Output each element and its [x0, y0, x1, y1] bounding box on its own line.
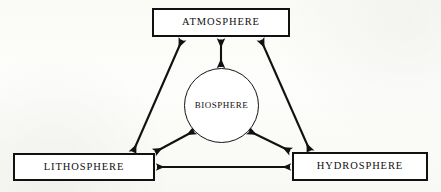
connector-atmosphere-lithosphere: [133, 40, 182, 152]
node-lithosphere: LITHOSPHERE: [13, 153, 155, 181]
connector-biosphere-lithosphere: [155, 131, 194, 152]
node-hydrosphere-label: HYDROSPHERE: [317, 161, 403, 172]
node-hydrosphere: HYDROSPHERE: [292, 152, 428, 181]
node-atmosphere: ATMOSPHERE: [152, 8, 290, 37]
spheres-diagram: ATMOSPHERE BIOSPHERE LITHOSPHERE HYDROSP…: [0, 0, 441, 192]
node-biosphere-label: BIOSPHERE: [195, 101, 249, 110]
node-lithosphere-label: LITHOSPHERE: [44, 162, 124, 173]
node-atmosphere-label: ATMOSPHERE: [182, 17, 260, 28]
node-biosphere: BIOSPHERE: [184, 68, 259, 143]
connector-biosphere-hydrosphere: [249, 131, 290, 151]
connector-atmosphere-hydrosphere: [261, 40, 310, 151]
